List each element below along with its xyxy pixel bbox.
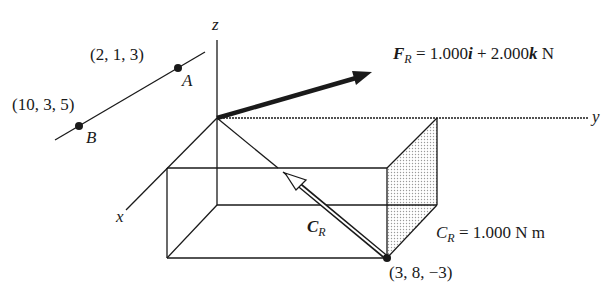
box-bottom-left-diagonal: [167, 205, 217, 258]
point-a-coords: (2, 1, 3): [90, 46, 144, 63]
force-arrow: [217, 71, 372, 118]
y-axis-label: y: [592, 108, 600, 125]
couple-point-marker: [383, 254, 391, 262]
force-k-unit: k: [529, 44, 538, 63]
point-a-label: A: [182, 72, 192, 89]
position-line: [217, 118, 278, 168]
couple-value: 1.000: [473, 223, 511, 242]
couple-magnitude: CR = 1.000 N m: [436, 224, 545, 241]
couple-point-coords: (3, 8, −3): [389, 264, 452, 281]
couple-arrow: [285, 173, 387, 258]
couple-subscript: R: [447, 231, 454, 245]
x-axis: [126, 118, 217, 210]
couple-symbol-bold: C: [307, 217, 318, 236]
couple-arrow-label: CR: [307, 218, 326, 235]
couple-symbol: C: [436, 223, 447, 242]
force-symbol: F: [393, 44, 404, 63]
force-equation: FR = 1.000i + 2.000k N: [393, 45, 554, 62]
box-shaded-face: [387, 118, 437, 258]
force-subscript: R: [404, 52, 411, 66]
force-i-coef: 1.000: [430, 44, 468, 63]
point-b-coords: (10, 3, 5): [12, 96, 74, 113]
force-i-unit: i: [468, 44, 473, 63]
x-axis-label: x: [116, 208, 124, 225]
point-a-marker: [174, 64, 182, 72]
couple-equals: =: [459, 223, 469, 242]
couple-subscript-bold: R: [318, 225, 325, 239]
diagram-canvas: z y x (2, 1, 3) A (10, 3, 5) B (3, 8, −3…: [0, 0, 614, 298]
force-plus: +: [477, 44, 487, 63]
force-unit: N: [542, 44, 554, 63]
point-b-label: B: [86, 129, 96, 146]
force-equals: =: [416, 44, 426, 63]
couple-unit: N m: [515, 223, 545, 242]
force-k-coef: 2.000: [491, 44, 529, 63]
point-b-marker: [75, 122, 83, 130]
z-axis-label: z: [212, 16, 219, 33]
